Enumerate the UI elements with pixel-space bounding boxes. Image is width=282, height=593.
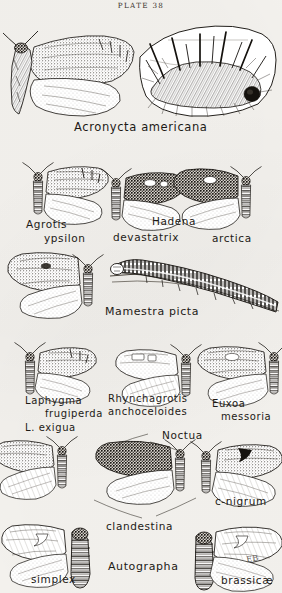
caption-anchoceloides: anchoceloides (108, 407, 187, 417)
caption-noctua: Noctua (162, 430, 203, 441)
caption-devastatrix: devastatrix (113, 232, 179, 243)
figure-acronycta-americana-moth (3, 31, 134, 116)
figure-noctua-clandestina-moth-left (0, 437, 78, 500)
figure-laphygma-frugiperda-moth (15, 343, 97, 403)
plate-illustration: PLATE 38 (0, 0, 282, 593)
caption-arctica: arctica (212, 233, 252, 244)
caption-frugiperda: frugiperda (45, 409, 103, 419)
figure-noctua-clandestina-moth-mid (96, 440, 196, 505)
caption-rhynchagrotis: Rhynchagrotis (108, 394, 188, 404)
caption-clandestina: clandestina (106, 521, 173, 532)
caption-messoria: messoria (221, 412, 271, 422)
caption-simplex: simplex (31, 574, 76, 585)
caption-mamestra-picta: Mamestra picta (105, 306, 199, 317)
caption-hadena: Hadena (152, 216, 196, 227)
figure-acronycta-americana-larva (140, 26, 276, 117)
figure-mamestra-picta-moth (8, 253, 104, 319)
figure-euxoa-messoria-moth (198, 343, 282, 406)
figure-autographa-brassicae-larva (195, 532, 214, 590)
caption-autographa: Autographa (108, 561, 178, 572)
caption-l-exigua: L. exigua (25, 423, 76, 433)
caption-acronycta-americana: Acronycta americana (74, 122, 207, 134)
caption-laphygma: Laphygma (25, 396, 82, 406)
caption-euxoa: Euxoa (212, 399, 246, 409)
figure-agrotis-ypsilon-moth (23, 163, 109, 225)
caption-ypsilon: ypsilon (44, 233, 85, 244)
caption-agrotis: Agrotis (26, 219, 67, 230)
caption-c-nigrum: c-nigrum (215, 496, 267, 507)
caption-brassicae: brassicæ (221, 575, 273, 586)
